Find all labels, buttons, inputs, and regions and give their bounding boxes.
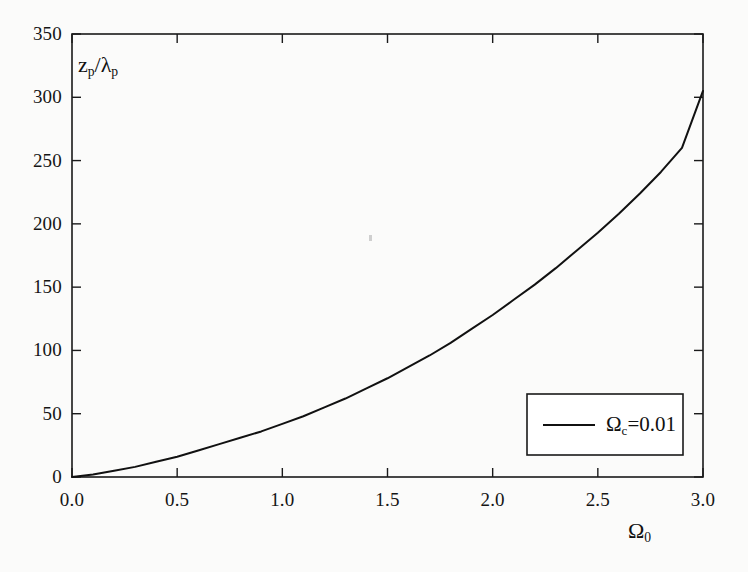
y-axis-title-sub: p xyxy=(88,64,95,79)
y-tick-label: 0 xyxy=(0,466,62,488)
x-tick-label: 2.0 xyxy=(463,489,523,511)
y-axis-title-tail: /λ xyxy=(95,52,112,77)
y-axis-title-tail-sub: p xyxy=(111,64,118,79)
y-tick-label: 50 xyxy=(0,403,62,425)
y-tick-label: 200 xyxy=(0,213,62,235)
plot-area xyxy=(0,0,748,572)
x-tick-label: 1.0 xyxy=(252,489,312,511)
y-axis-title-base: z xyxy=(78,52,88,77)
x-tick-label: 0.5 xyxy=(147,489,207,511)
x-tick-label: 0.0 xyxy=(42,489,102,511)
legend-entry-base: Ω xyxy=(606,412,622,436)
scan-speck xyxy=(369,235,372,241)
y-tick-label: 250 xyxy=(0,150,62,172)
x-tick-label: 1.5 xyxy=(358,489,418,511)
x-axis-title-base: Ω xyxy=(628,518,644,543)
x-axis-title-sub: 0 xyxy=(644,530,651,545)
x-tick-label: 3.0 xyxy=(673,489,733,511)
y-axis-title: zp/λp xyxy=(78,52,118,80)
legend-entry-label: Ωc=0.01 xyxy=(606,412,676,439)
legend-entry-tail: =0.01 xyxy=(627,412,676,436)
y-tick-label: 150 xyxy=(0,276,62,298)
figure-page: 050100150200250300350 0.00.51.01.52.02.5… xyxy=(0,0,748,572)
y-tick-label: 350 xyxy=(0,23,62,45)
y-tick-label: 300 xyxy=(0,86,62,108)
chart-svg xyxy=(0,0,748,572)
y-tick-label: 100 xyxy=(0,339,62,361)
x-tick-label: 2.5 xyxy=(568,489,628,511)
x-axis-title: Ω0 xyxy=(628,518,651,546)
